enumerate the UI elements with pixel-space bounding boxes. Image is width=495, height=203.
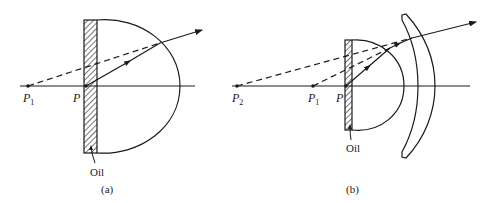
virtual-ray-p2-dashed (237, 38, 412, 86)
point-p1-dot (26, 84, 30, 88)
ray-inside-lens-continued (128, 43, 160, 62)
panel-b: P2 P1 P Oil (b) (231, 14, 476, 196)
refracted-ray (160, 30, 202, 43)
label-p1: P1 (22, 91, 34, 107)
label-p1: P1 (307, 91, 319, 107)
label-p2: P2 (231, 91, 243, 107)
point-p1-dot (311, 84, 315, 88)
panel-a: P1 P Oil (a) (20, 20, 202, 196)
oil-label-b: Oil (346, 142, 360, 154)
refracted-ray-out (412, 22, 476, 38)
label-p: P (72, 91, 81, 105)
point-p-dot (84, 84, 88, 88)
optics-diagram: P1 P Oil (a) (0, 0, 495, 203)
caption-a: (a) (101, 183, 114, 196)
point-p2-dot (235, 84, 239, 88)
label-p: P (335, 91, 344, 105)
caption-b: (b) (346, 183, 359, 196)
ray-between-lenses (390, 44, 398, 48)
oil-label-a: Oil (90, 166, 104, 178)
ray-between-lenses-continued (398, 38, 412, 44)
point-p-dot (344, 84, 348, 88)
